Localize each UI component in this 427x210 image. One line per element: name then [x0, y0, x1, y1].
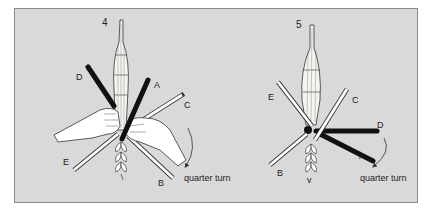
- grain-ear-4: [116, 142, 127, 180]
- rotate-arrow-icon: [186, 128, 193, 166]
- step-number-5: 5: [296, 19, 302, 30]
- stem-end-mark-5: v: [307, 175, 312, 185]
- label-e-5: E: [268, 92, 274, 102]
- label-c-4: C: [184, 100, 191, 110]
- label-b-4: B: [158, 178, 164, 188]
- straw-b-5: [270, 134, 307, 165]
- label-d-4: D: [76, 72, 83, 82]
- label-c-5: C: [352, 95, 359, 105]
- panel-step-4: 4: [54, 17, 231, 188]
- left-hand: [54, 108, 120, 142]
- rotate-arrow-icon: [374, 138, 386, 166]
- plaiting-diagram: 4: [0, 0, 427, 210]
- label-b-5: B: [277, 168, 283, 178]
- label-e-4: E: [63, 157, 69, 167]
- plaited-stem-5: [302, 25, 321, 125]
- label-a-4: A: [154, 80, 160, 90]
- label-d-5: D: [377, 120, 384, 130]
- grain-ear-5: [306, 144, 317, 172]
- straw-a-5: [320, 134, 373, 161]
- caption-quarter-turn-5: quarter turn: [360, 173, 407, 183]
- step-number-4: 4: [102, 17, 108, 28]
- label-a-5: A: [359, 151, 365, 161]
- panel-step-5: 5: [268, 19, 407, 185]
- caption-quarter-turn-4: quarter turn: [184, 173, 231, 183]
- straw-d-4: [88, 67, 114, 106]
